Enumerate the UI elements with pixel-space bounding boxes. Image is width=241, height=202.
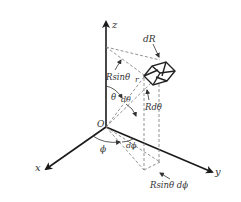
phi-arc (93, 136, 120, 142)
theta-label: θ (111, 92, 116, 102)
volume-element (144, 62, 175, 85)
rsin-theta-label: Rsinθ (105, 72, 130, 82)
rsin-theta-dphi-label: Rsinθ dϕ (149, 180, 188, 190)
rsin-theta-line-top (106, 47, 160, 60)
rd-theta-leader (147, 90, 149, 100)
x-axis (46, 127, 106, 169)
d-phi-label: dϕ (126, 141, 137, 150)
z-axis-label: z (111, 19, 118, 30)
phi-label: ϕ (100, 144, 106, 154)
rsin-theta-leader (115, 60, 121, 70)
rd-theta-label: Rdθ (144, 102, 162, 112)
dR-leader (153, 44, 159, 57)
projection-line-1 (106, 127, 144, 170)
y-axis-label: y (214, 166, 221, 177)
projection-base (144, 162, 160, 170)
x-axis-label: x (35, 162, 41, 173)
rsin-theta-line-bottom (106, 47, 144, 75)
dR-label: dR (143, 34, 156, 44)
spherical-coordinates-diagram: z x y O dR r Rsinθ θ dθ Rdθ ϕ dϕ Rsinθ d… (0, 0, 241, 202)
origin-label: O (97, 119, 105, 129)
rsin-theta-dphi-leader (160, 173, 170, 179)
d-theta-label: dθ (121, 95, 131, 104)
